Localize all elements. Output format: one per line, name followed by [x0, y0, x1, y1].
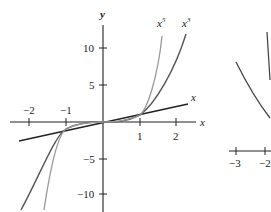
x-axis-label: x — [199, 116, 205, 128]
y-tick-label-m10: −10 — [77, 188, 95, 200]
x-tick-label-1: 1 — [137, 130, 143, 142]
x-tick-label-2: 2 — [173, 130, 179, 142]
second-curve-1 — [236, 62, 270, 118]
y-tick-label-10: 10 — [83, 42, 95, 54]
second-x-tick-label-m3: −3 — [229, 157, 241, 169]
y-tick-label-m5: −5 — [83, 153, 95, 165]
y-axis-label: y — [98, 8, 105, 20]
second-curve-2 — [267, 32, 270, 80]
second-x-tick-label-m2: −2 — [259, 157, 271, 169]
x-tick-label-m1: −1 — [60, 104, 72, 116]
label-x5: x5 — [156, 16, 166, 29]
power-functions-chart: −2 −1 1 2 10 5 −5 −10 y x x5 x3 x −3 −2 — [0, 0, 271, 212]
label-x: x — [190, 91, 196, 103]
x-tick-label-m2: −2 — [23, 104, 35, 116]
label-x3: x3 — [181, 16, 191, 29]
y-tick-label-5: 5 — [89, 79, 95, 91]
